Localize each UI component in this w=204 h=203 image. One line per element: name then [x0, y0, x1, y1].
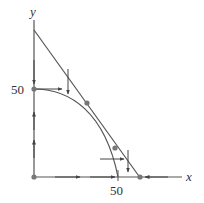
curved-nullcline [34, 89, 118, 177]
x-axis-label: x [185, 169, 192, 184]
equilibrium-y-intercept [31, 86, 36, 91]
x-tick-label-50: 50 [110, 183, 123, 198]
equilibrium-lower-intersection [112, 145, 117, 150]
phase-plane-diagram: y x 50 50 [0, 0, 204, 203]
equilibrium-x-intercept [137, 174, 142, 179]
y-axis-label: y [28, 4, 36, 19]
equilibrium-upper-intersection [84, 100, 89, 105]
equilibrium-origin [31, 174, 36, 179]
y-tick-label-50: 50 [11, 82, 24, 97]
